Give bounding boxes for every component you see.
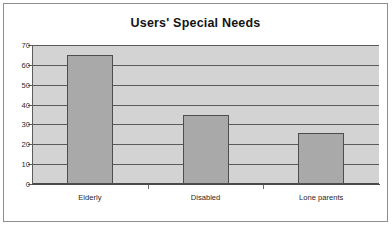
bar <box>183 115 229 185</box>
y-axis-tick-labels: 010203040506070 <box>6 45 30 184</box>
y-axis-tick-label: 70 <box>8 41 30 50</box>
y-axis-tick-label: 50 <box>8 80 30 89</box>
x-axis-tick-label: Elderly <box>78 193 101 202</box>
x-axis-tick-label: Lone parents <box>299 193 343 202</box>
chart-frame: Users' Special Needs 010203040506070 Eld… <box>3 3 388 222</box>
x-axis-tick-label: Disabled <box>191 193 221 202</box>
y-axis-tick-label: 20 <box>8 140 30 149</box>
y-axis-tick-label: 0 <box>8 180 30 189</box>
y-axis-tick-label: 60 <box>8 60 30 69</box>
y-axis-tick-label: 30 <box>8 120 30 129</box>
chart-title: Users' Special Needs <box>4 16 387 30</box>
gridline <box>32 45 379 46</box>
x-axis-tick <box>263 185 264 189</box>
bar <box>298 133 344 184</box>
x-axis-line <box>32 184 380 185</box>
bar <box>67 55 113 184</box>
x-axis-tick <box>148 185 149 189</box>
y-axis-line <box>32 45 33 185</box>
y-axis-tick-label: 10 <box>8 160 30 169</box>
plot-area <box>32 45 379 184</box>
y-axis-tick-label: 40 <box>8 100 30 109</box>
